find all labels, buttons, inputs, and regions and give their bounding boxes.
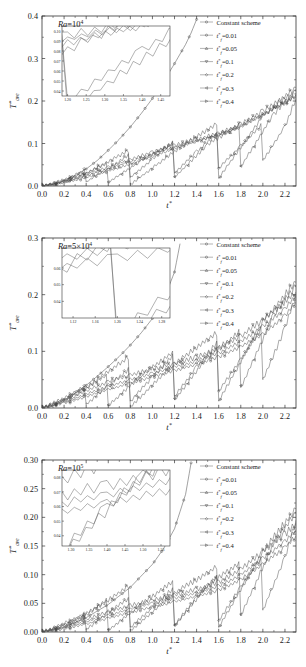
y-tick-label: 0.1 — [28, 347, 38, 356]
x-tick-label: 0.8 — [125, 190, 135, 199]
legend-label: t*f=0.1 — [217, 502, 234, 512]
x-tick-label: 0.4 — [81, 190, 91, 199]
y-tick-label: 0.3 — [28, 55, 38, 64]
inset-x-tick: 1.45 — [122, 548, 129, 552]
x-tick-label: 1.0 — [147, 190, 157, 199]
series-5 — [41, 89, 297, 186]
legend-label: t*f=0.4 — [217, 319, 235, 329]
x-tick-label: 0.4 — [81, 636, 91, 645]
x-axis-title: t* — [166, 200, 171, 210]
inset-x-tick: 1.40 — [139, 98, 146, 102]
x-tick-label: 1.0 — [147, 636, 157, 645]
x-tick-label: 1.6 — [214, 412, 224, 421]
panel-a-svg: 0.00.20.40.60.81.01.21.41.61.82.02.20.00… — [0, 0, 306, 222]
y-tick-label: 0.3 — [28, 234, 38, 243]
ra-label: Ra=104 — [57, 19, 83, 29]
legend-label: Constant scheme — [217, 19, 261, 26]
legend-label: t*f=0.1 — [217, 58, 234, 68]
x-axis-title: t* — [166, 422, 171, 432]
x-tick-label: 2.2 — [280, 412, 290, 421]
inset-y-tick: 0.04 — [54, 300, 61, 304]
y-tick-label: 0.0 — [28, 404, 38, 413]
legend-label: t*f=0.3 — [217, 306, 234, 316]
inset-x-tick: 1.30 — [68, 548, 75, 552]
legend-label: t*f=0.05 — [217, 45, 237, 55]
legend-label: t*f=0.4 — [217, 97, 235, 107]
inset-x-tick: 1.55 — [158, 548, 165, 552]
inset-x-tick: 1.16 — [92, 320, 99, 324]
inset-axes: 1.121.161.201.241.280.040.050.06 — [7, 222, 225, 345]
legend-label: Constant scheme — [217, 463, 261, 470]
x-tick-label: 0.4 — [81, 412, 91, 421]
series-1 — [41, 536, 296, 632]
x-tick-label: 0.2 — [59, 636, 69, 645]
y-tick-label: 0.05 — [24, 599, 38, 608]
y-tick-label: 0.20 — [24, 513, 38, 522]
x-tick-label: 2.0 — [258, 190, 268, 199]
x-tick-label: 2.0 — [258, 412, 268, 421]
ra-label: Ra=105 — [57, 463, 83, 473]
legend-label: t*f=0.01 — [217, 475, 237, 485]
inset-y-tick: 0.07 — [54, 491, 61, 495]
x-tick-label: 1.2 — [169, 190, 179, 199]
inset-x-tick: 1.20 — [64, 98, 71, 102]
x-tick-label: 0.8 — [125, 412, 135, 421]
inset-y-tick: 0.06 — [54, 70, 61, 74]
chart-panel-b: 0.00.20.40.60.81.01.21.41.61.82.02.20.00… — [0, 222, 306, 444]
inset-x-tick: 1.25 — [83, 98, 90, 102]
svg-text:T*ave: T*ave — [8, 538, 20, 554]
inset-y-tick: 0.10 — [54, 30, 61, 34]
inset-x-tick: 1.35 — [120, 98, 127, 102]
inset-x-tick: 1.45 — [157, 98, 164, 102]
inset-y-tick: 0.05 — [54, 283, 61, 287]
y-tick-label: 0.15 — [24, 542, 38, 551]
y-tick-label: 0.2 — [28, 97, 38, 106]
x-tick-label: 0.6 — [103, 636, 113, 645]
x-tick-label: 1.0 — [147, 412, 157, 421]
x-tick-label: 1.4 — [191, 636, 201, 645]
svg-text:T*ave: T*ave — [8, 93, 20, 109]
inset-y-tick: 0.04 — [54, 534, 61, 538]
inset-x-tick: 1.28 — [158, 320, 165, 324]
inset-y-tick: 0.08 — [54, 50, 61, 54]
inset-x-tick: 1.12 — [70, 320, 77, 324]
y-tick-label: 0.2 — [28, 291, 38, 300]
x-tick-label: 1.4 — [191, 412, 201, 421]
y-tick-label: 0.00 — [24, 628, 38, 637]
y-tick-label: 0.4 — [28, 12, 38, 21]
panel-c-svg: 0.00.20.40.60.81.01.21.41.61.82.02.20.00… — [0, 444, 306, 667]
svg-text:Ra=105: Ra=105 — [57, 463, 83, 473]
y-tick-label: 0.1 — [28, 140, 38, 149]
inset-y-tick: 0.06 — [54, 505, 61, 509]
inset-y-tick: 0.06 — [54, 267, 61, 271]
legend-label: t*f=0.01 — [217, 31, 237, 41]
legend-label: t*f=0.01 — [217, 253, 237, 263]
ra-label: Ra=5×104 — [57, 241, 92, 251]
x-tick-label: 0.8 — [125, 636, 135, 645]
inset-y-tick: 0.05 — [54, 520, 61, 524]
x-tick-label: 1.8 — [236, 190, 246, 199]
x-tick-label: 1.8 — [236, 412, 246, 421]
legend-label: t*f=0.2 — [217, 71, 234, 81]
inset-x-tick: 1.20 — [114, 320, 121, 324]
inset-x-tick: 1.50 — [140, 548, 147, 552]
inset-axes: 1.301.351.401.451.501.550.040.050.060.07… — [28, 444, 205, 583]
legend-label: t*f=0.05 — [217, 267, 237, 277]
x-tick-label: 0.0 — [37, 190, 47, 199]
legend-label: t*f=0.05 — [217, 489, 237, 499]
x-tick-label: 0.6 — [103, 190, 113, 199]
y-tick-label: 0.0 — [28, 182, 38, 191]
x-tick-label: 1.6 — [214, 636, 224, 645]
x-tick-label: 1.8 — [236, 636, 246, 645]
panel-b-svg: 0.00.20.40.60.81.01.21.41.61.82.02.20.00… — [0, 222, 306, 444]
y-tick-label: 0.10 — [24, 571, 38, 580]
inset-x-tick: 1.40 — [104, 548, 111, 552]
legend-label: t*f=0.2 — [217, 293, 234, 303]
x-tick-label: 1.2 — [169, 412, 179, 421]
legend-label: t*f=0.3 — [217, 528, 234, 538]
x-tick-label: 2.0 — [258, 636, 268, 645]
inset-y-tick: 0.08 — [54, 476, 61, 480]
x-axis-title: t* — [166, 646, 171, 656]
legend-label: t*f=0.1 — [217, 280, 234, 290]
inset-x-tick: 1.35 — [86, 548, 93, 552]
